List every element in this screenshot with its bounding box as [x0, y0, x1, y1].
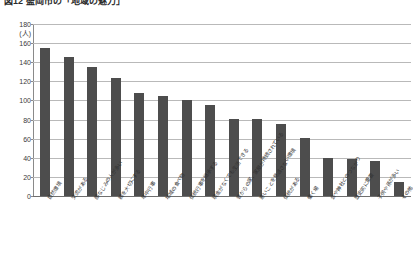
y-axis-tick: 100 [3, 97, 31, 104]
page-title: 図12 盛岡市の「地域の魅力」 [4, 0, 194, 6]
bar[interactable] [64, 57, 74, 196]
bar[interactable] [87, 67, 97, 196]
y-axis-tick: 120 [3, 78, 31, 85]
bar[interactable] [158, 96, 168, 196]
bar-slot [151, 24, 175, 196]
y-axis-tick: 160 [3, 40, 31, 47]
chart-title-strip: 図12 盛岡市の「地域の魅力」 [4, 0, 194, 7]
bar-slot [363, 24, 387, 196]
y-axis-tick-labels: 180160140120100806040200 [0, 24, 31, 196]
bar[interactable] [182, 100, 192, 197]
x-axis-category-labels: 自然環境交流がある顔なじみの人が多い親を大切にする年中行事地域の食べ物伝統行事を… [33, 197, 413, 278]
bar[interactable] [323, 158, 333, 196]
bar[interactable] [300, 138, 310, 196]
bar-slot [57, 24, 81, 196]
y-axis-tick: 180 [3, 21, 31, 28]
bar-slot [33, 24, 57, 196]
y-axis-tick: 20 [3, 174, 31, 181]
bar-slot [316, 24, 340, 196]
y-axis-tick: 40 [3, 155, 31, 162]
bar-slot [80, 24, 104, 196]
bar-slot [293, 24, 317, 196]
bar-chart: 図12 盛岡市の「地域の魅力」 (人) 18016014012010080604… [0, 0, 413, 278]
bar[interactable] [205, 105, 215, 196]
y-axis-tick: 80 [3, 117, 31, 124]
bar-slot [175, 24, 199, 196]
y-axis-tick: 0 [3, 193, 31, 200]
y-axis-tick: 60 [3, 136, 31, 143]
y-axis-tick: 140 [3, 59, 31, 66]
bar[interactable] [40, 48, 50, 196]
bar[interactable] [134, 93, 144, 196]
